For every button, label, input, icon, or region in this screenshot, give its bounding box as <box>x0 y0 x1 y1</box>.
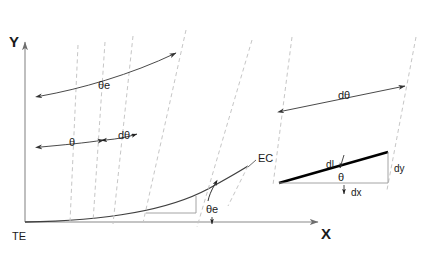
detail-dy-label: dy <box>394 163 405 174</box>
detail-dx-label: dx <box>351 187 362 198</box>
detail-dashed-ray-left <box>273 37 292 185</box>
theta-e-upper-arc-group: θe <box>41 53 176 96</box>
detail-theta-group: θ <box>338 155 344 183</box>
d-theta-arc-group: dθ <box>106 129 137 141</box>
dashed-ray-4 <box>143 30 186 223</box>
diagram-svg: θe θ dθ EC θe Y X TE <box>0 0 448 271</box>
x-axis-label: X <box>321 225 331 242</box>
y-axis-label: Y <box>9 33 19 50</box>
ec-label: EC <box>258 152 273 164</box>
theta-e-upper-label: θe <box>98 79 110 91</box>
diagram-canvas: θe θ dθ EC θe Y X TE <box>0 0 448 271</box>
dashed-ray-5 <box>197 40 252 227</box>
axis-group <box>25 42 318 222</box>
detail-theta-label: θ <box>338 171 344 183</box>
detail-panel-group: dθ dl θ dx dy <box>273 37 416 198</box>
ec-leader-line <box>248 160 256 167</box>
theta-e-lower-group: θe <box>206 184 218 224</box>
ec-point-group: EC <box>248 152 273 167</box>
detail-dx-group: dx <box>344 185 362 198</box>
dashed-ray-2 <box>93 42 105 222</box>
detail-d-theta-group: dθ <box>283 86 405 111</box>
detail-dl-label: dl <box>326 159 334 170</box>
detail-d-theta-label: dθ <box>338 89 350 101</box>
theta-arc-group: θ <box>41 136 104 148</box>
te-label: TE <box>12 230 26 242</box>
theta-e-lower-label: θe <box>206 203 218 215</box>
dashed-ray-1 <box>70 45 78 222</box>
d-theta-label: dθ <box>118 129 130 141</box>
theta-label: θ <box>69 136 75 148</box>
